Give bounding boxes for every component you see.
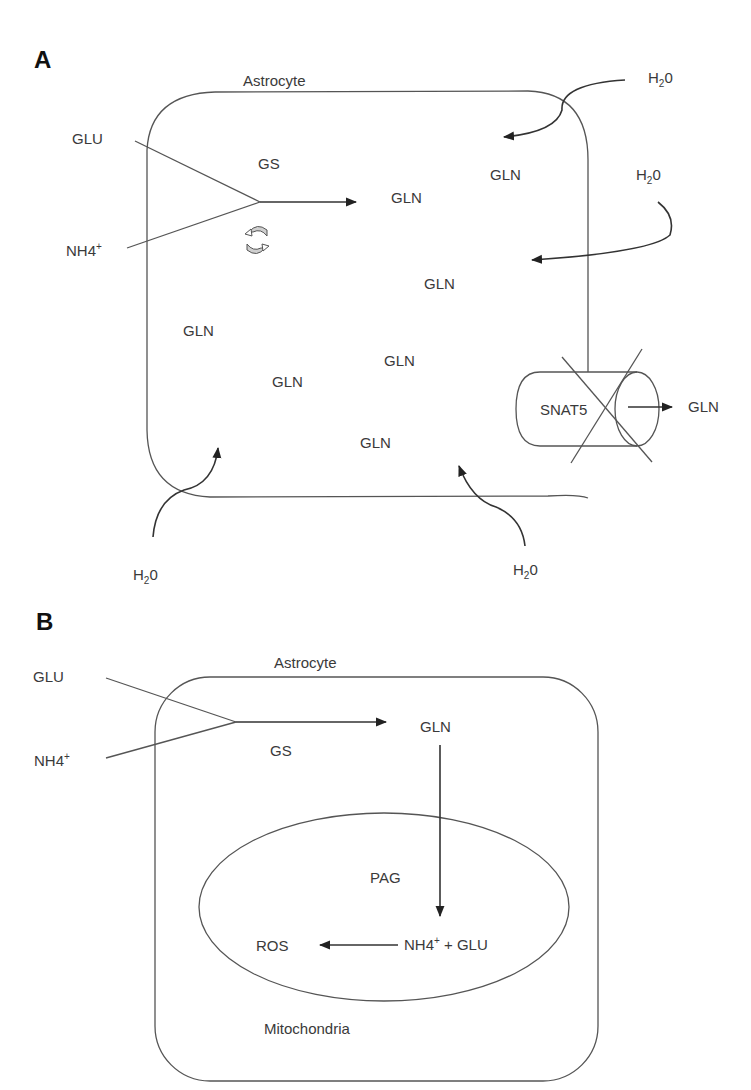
h2o-label: H20 <box>513 561 538 581</box>
glu-input-b: GLU <box>33 668 64 685</box>
water-influx-arrow <box>532 202 672 260</box>
gs-enzyme-b: GS <box>270 742 292 759</box>
gln-product-a: GLN <box>391 189 422 206</box>
gs-enzyme-a: GS <box>258 155 280 172</box>
panel-b-label: B <box>36 608 53 635</box>
gln-label: GLN <box>272 373 303 390</box>
h2o-label: H20 <box>133 566 158 586</box>
astrocyte-label-a: Astrocyte <box>243 72 306 89</box>
gln-label: GLN <box>183 322 214 339</box>
gln-label: GLN <box>384 352 415 369</box>
snat5-transporter: SNAT5 GLN <box>516 349 719 463</box>
gln-label: GLN <box>424 275 455 292</box>
nh4-line-b <box>106 722 236 758</box>
recycle-arrows-icon <box>245 226 269 253</box>
h2o-label: H20 <box>648 69 673 89</box>
astrocyte-label-b: Astrocyte <box>274 654 337 671</box>
nh4-input-b: NH4+ <box>34 751 70 769</box>
pag-enzyme: PAG <box>370 869 401 886</box>
snat5-label: SNAT5 <box>540 401 587 418</box>
mitochondria-label: Mitochondria <box>264 1020 351 1037</box>
gln-label: GLN <box>360 434 391 451</box>
gln-export-label: GLN <box>688 398 719 415</box>
mitochondria-membrane <box>199 813 569 1001</box>
panel-b: B Astrocyte GLU NH4+ GS GLN Mitochondria… <box>33 608 598 1081</box>
panel-a: A Astrocyte GLU NH4+ GS GLN GLN GLN GLN … <box>34 46 719 586</box>
glu-line-b <box>106 678 236 722</box>
gln-label: GLN <box>490 166 521 183</box>
figure-canvas: A Astrocyte GLU NH4+ GS GLN GLN GLN GLN … <box>0 0 751 1090</box>
h2o-label: H20 <box>636 166 661 186</box>
nh4-input-a: NH4+ <box>66 241 102 259</box>
glu-input-a: GLU <box>72 130 103 147</box>
panel-a-label: A <box>34 46 51 73</box>
water-influx-arrow <box>504 80 625 137</box>
gln-product-b: GLN <box>420 718 451 735</box>
glu-line-a <box>135 141 260 202</box>
mito-products: NH4+ + GLU <box>404 935 488 953</box>
water-influx-arrow <box>459 466 525 546</box>
ros-label: ROS <box>256 937 289 954</box>
